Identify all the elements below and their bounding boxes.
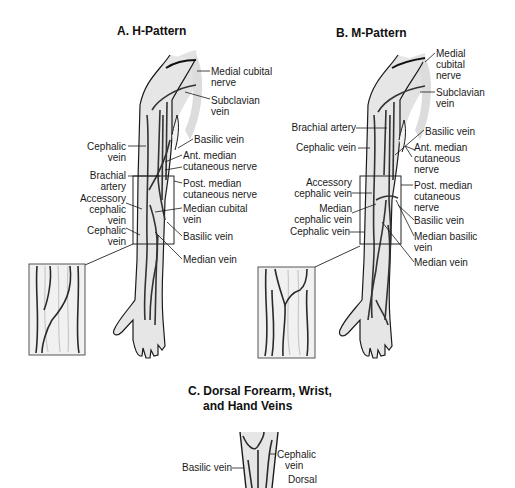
label-line: nerve	[436, 70, 465, 81]
label-post-median-cutaneous-nerve-b: Post. median cutaneous nerve	[414, 180, 472, 213]
label-medial-cubital-nerve: Medial cubital nerve	[211, 66, 272, 88]
label-cephalic-vein-lower: Cephalic vein	[80, 225, 126, 247]
label-line: cutaneous	[414, 153, 467, 164]
panel-a-title: A. H-Pattern	[117, 24, 186, 38]
label-line: Cephalic	[80, 141, 126, 152]
label-ant-median-cutaneous-nerve-b: Ant. median cutaneous nerve	[414, 142, 467, 175]
label-line: nerve	[414, 164, 467, 175]
label-line: Post. median	[183, 178, 257, 189]
label-subclavian-vein-b: Subclavian vein	[436, 87, 485, 109]
label-line: Subclavian	[211, 95, 260, 106]
label-line: vein	[436, 98, 485, 109]
label-basilic-vein-upper: Basilic vein	[194, 134, 244, 145]
label-line: Subclavian	[436, 87, 485, 98]
label-brachial-artery: Brachial artery	[80, 170, 126, 192]
label-line: Ant. median	[414, 142, 467, 153]
label-line: cubital	[436, 59, 465, 70]
panel-b-title: B. M-Pattern	[336, 26, 407, 40]
label-line: cephalic vein	[280, 188, 352, 199]
label-line: artery	[80, 181, 126, 192]
label-subclavian-vein: Subclavian vein	[211, 95, 260, 117]
label-line: vein	[211, 106, 260, 117]
label-medial-cubital-nerve-b: Medial cubital nerve	[436, 48, 465, 81]
inset-a	[29, 264, 85, 355]
label-line: vein	[80, 152, 126, 163]
label-line: vein	[183, 214, 247, 225]
label-line: Median basilic	[414, 231, 477, 242]
label-line: Post. median	[414, 180, 472, 191]
label-accessory-cephalic-vein: Accessory cephalic vein	[70, 193, 126, 226]
label-basilic-vein-lower: Basilic vein	[183, 231, 233, 242]
label-line: vein	[80, 236, 126, 247]
label-line: Ant. median	[183, 150, 257, 161]
label-line: vein	[414, 242, 477, 253]
forearm-c	[240, 432, 278, 488]
label-line: Accessory	[70, 193, 126, 204]
label-median-cephalic-vein-b: Median cephalic vein	[280, 203, 352, 225]
label-line: Medial cubital	[211, 66, 272, 77]
label-line: cutaneous nerve	[183, 189, 257, 200]
label-median-basilic-vein-b: Median basilic vein	[414, 231, 477, 253]
label-line: cutaneous nerve	[183, 161, 257, 172]
label-ant-median-cutaneous-nerve: Ant. median cutaneous nerve	[183, 150, 257, 172]
label-line: Accessory	[280, 177, 352, 188]
label-median-cubital-vein: Median cubital vein	[183, 203, 247, 225]
label-line: Cephalic	[80, 225, 126, 236]
label-cephalic-vein-upper-b: Cephalic vein	[280, 142, 356, 153]
panel-c-title-line2: and Hand Veins	[203, 399, 292, 413]
label-median-vein: Median vein	[183, 254, 237, 265]
inset-b	[258, 267, 315, 358]
label-brachial-artery-b: Brachial artery	[270, 122, 356, 133]
label-line: cephalic vein	[280, 214, 352, 225]
label-cephalic-vein-upper: Cephalic vein	[80, 141, 126, 163]
label-line: cephalic	[70, 204, 126, 215]
label-accessory-cephalic-vein-b: Accessory cephalic vein	[280, 177, 352, 199]
label-line: Medial	[436, 48, 465, 59]
label-post-median-cutaneous-nerve: Post. median cutaneous nerve	[183, 178, 257, 200]
label-line: cutaneous	[414, 191, 472, 202]
label-cephalic-vein-c: Cephalic vein	[277, 449, 316, 471]
label-basilic-vein-upper-b: Basilic vein	[425, 126, 475, 137]
panel-c-title-line1: C. Dorsal Forearm, Wrist,	[188, 384, 332, 398]
label-line: nerve	[211, 77, 272, 88]
label-line: vein	[277, 460, 316, 471]
label-dorsal-c: Dorsal	[288, 474, 317, 485]
label-line: Median cubital	[183, 203, 247, 214]
label-median-vein-b: Median vein	[414, 257, 468, 268]
label-line: Median	[280, 203, 352, 214]
label-line: nerve	[414, 202, 472, 213]
label-basilic-vein-c: Basilic vein	[170, 462, 232, 473]
label-line: Cephalic	[277, 449, 316, 460]
label-line: Brachial	[80, 170, 126, 181]
label-cephalic-vein-lower-b: Cephalic vein	[280, 226, 350, 237]
label-basilic-vein-lower-b: Basilic vein	[414, 215, 464, 226]
